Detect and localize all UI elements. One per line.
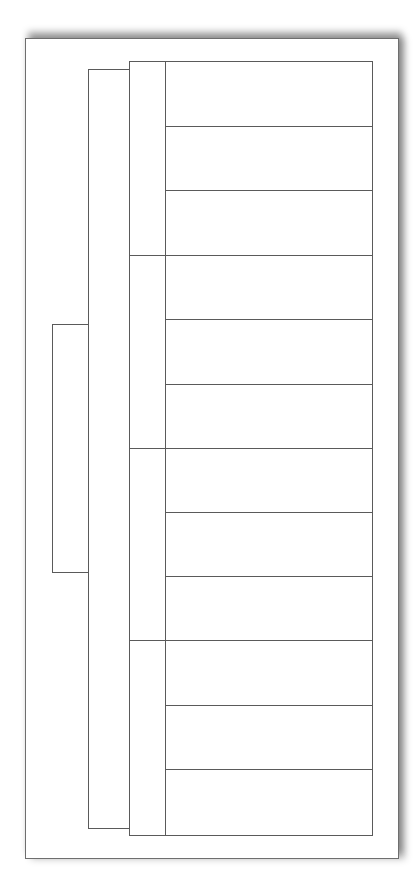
leaf-cell (165, 384, 373, 449)
leaf-cell (165, 576, 373, 641)
leaf-cell (165, 126, 373, 191)
leaf-cells-column (165, 61, 373, 836)
level1-bracket (88, 69, 130, 829)
leaf-cell (165, 190, 373, 256)
leaf-cell (165, 448, 373, 513)
leaf-cell (165, 255, 373, 320)
leaf-cell (165, 705, 373, 770)
leaf-cell (165, 61, 373, 127)
leaf-cell (165, 640, 373, 706)
leaf-cell (165, 769, 373, 836)
root-bracket (52, 324, 89, 573)
leaf-cell (165, 512, 373, 577)
group-bracket-2 (129, 255, 166, 449)
group-column (129, 61, 166, 836)
leaf-cell (165, 319, 373, 385)
group-bracket-4 (129, 640, 166, 836)
group-bracket-1 (129, 61, 166, 256)
group-bracket-3 (129, 448, 166, 641)
